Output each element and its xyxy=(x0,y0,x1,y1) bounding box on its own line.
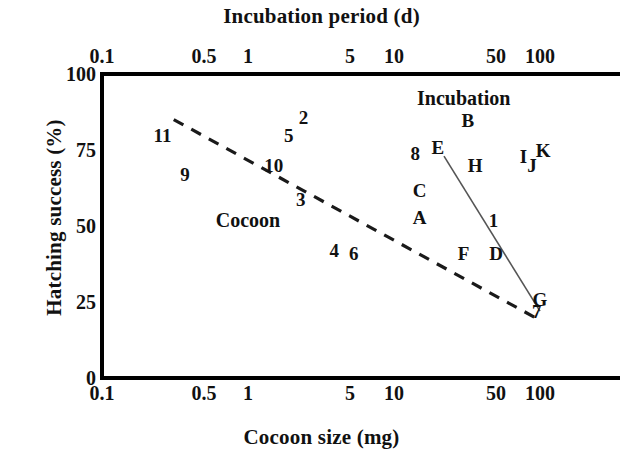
scatter-chart-figure: Incubation period (d) Cocoon size (mg) H… xyxy=(0,0,643,461)
data-point-F: F xyxy=(458,244,470,263)
data-point-11: 11 xyxy=(154,125,172,144)
data-point-2: 2 xyxy=(299,107,309,126)
y-tick-75: 75 xyxy=(76,139,96,162)
top-tick-5: 5 xyxy=(345,45,355,68)
data-point-10: 10 xyxy=(264,156,283,175)
bottom-tick-1: 1 xyxy=(243,382,253,405)
data-point-D: D xyxy=(489,244,503,263)
y-tick-0: 0 xyxy=(86,367,96,390)
data-point-9: 9 xyxy=(180,165,190,184)
data-point-A: A xyxy=(413,207,427,226)
y-tick-50: 50 xyxy=(76,215,96,238)
bottom-tick-100: 100 xyxy=(525,382,555,405)
data-point-I: I xyxy=(520,147,527,166)
top-tick-1: 1 xyxy=(243,45,253,68)
annotation-incubation: Incubation xyxy=(417,87,510,110)
top-tick-100: 100 xyxy=(525,45,555,68)
data-point-5: 5 xyxy=(284,125,294,144)
data-point-8: 8 xyxy=(411,144,421,163)
data-point-4: 4 xyxy=(330,241,340,260)
bottom-axis-title: Cocoon size (mg) xyxy=(0,425,643,450)
bottom-tick-5: 5 xyxy=(345,382,355,405)
data-point-E: E xyxy=(432,137,445,156)
data-point-B: B xyxy=(461,110,474,129)
data-point-3: 3 xyxy=(296,189,306,208)
bottom-tick-0.5: 0.5 xyxy=(192,382,217,405)
plot-area: 1195210346817ABCDEFGHIJK xyxy=(102,74,620,378)
y-tick-100: 100 xyxy=(66,63,96,86)
bottom-tick-50: 50 xyxy=(486,382,506,405)
top-tick-10: 10 xyxy=(384,45,404,68)
data-point-K: K xyxy=(536,141,551,160)
annotation-cocoon: Cocoon xyxy=(216,208,280,231)
bottom-tick-10: 10 xyxy=(384,382,404,405)
y-axis-tick-labels: 0255075100 xyxy=(40,0,96,461)
top-tick-0.5: 0.5 xyxy=(192,45,217,68)
y-tick-25: 25 xyxy=(76,291,96,314)
data-point-H: H xyxy=(468,156,483,175)
data-point-1: 1 xyxy=(489,210,499,229)
top-axis-title: Incubation period (d) xyxy=(0,4,643,29)
top-tick-50: 50 xyxy=(486,45,506,68)
data-point-G: G xyxy=(533,289,548,308)
data-point-6: 6 xyxy=(349,244,359,263)
data-point-C: C xyxy=(413,180,427,199)
